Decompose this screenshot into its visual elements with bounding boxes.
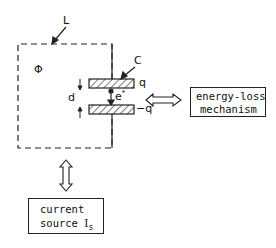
lower-charge-label: −q — [136, 103, 152, 114]
capacitor-upper-plate — [89, 79, 134, 88]
gap-arrows — [78, 79, 82, 118]
current-source-box: current source Is — [28, 198, 104, 234]
energy-loss-line1: energy-loss — [196, 90, 266, 103]
electron-arrow — [108, 89, 114, 105]
capacitor-label: C — [134, 55, 142, 66]
current-source-line1: current — [40, 203, 84, 216]
inductor-pointer-arrow — [52, 27, 66, 44]
energy-loss-box: energy-loss mechanism — [190, 87, 266, 117]
electron-superscript: * — [122, 89, 126, 97]
gap-label: d — [68, 92, 75, 103]
capacitor-lower-plate — [89, 105, 134, 114]
electron-symbol: e — [115, 90, 122, 103]
flux-label: Φ — [34, 64, 43, 75]
current-source-line2: source Is — [40, 217, 93, 234]
vertical-double-arrow — [60, 160, 72, 191]
current-subscript: s — [88, 223, 93, 232]
capacitor-pointer-arrow — [121, 67, 135, 79]
inductor-label: L — [63, 15, 69, 26]
electron-label: e* — [115, 90, 125, 102]
energy-loss-line2: mechanism — [200, 103, 257, 116]
upper-charge-label: q — [139, 77, 146, 88]
inductor-loop — [18, 44, 112, 148]
current-source-word: source — [40, 217, 84, 229]
